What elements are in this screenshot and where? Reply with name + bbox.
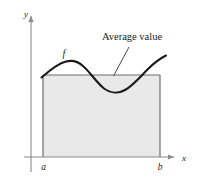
x-axis-arrowhead [168, 154, 174, 159]
x-axis-label: x [181, 153, 186, 163]
average-value-figure: y x a b f Average value [0, 0, 201, 181]
y-axis-arrowhead [28, 16, 33, 22]
y-axis-label: y [23, 9, 28, 19]
function-label: f [63, 48, 67, 59]
annotation-leader-line [114, 47, 130, 76]
left-bound-label: a [41, 162, 46, 172]
figure-canvas: y x a b f Average value [0, 0, 201, 181]
right-bound-label: b [158, 162, 163, 172]
average-value-annotation: Average value [102, 31, 162, 42]
